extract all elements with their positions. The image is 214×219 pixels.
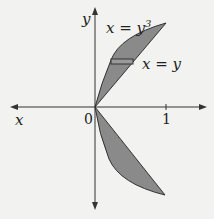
- curve-label-line: x = y: [142, 55, 182, 73]
- tick-label-1: 1: [162, 111, 171, 127]
- y-axis-label: y: [81, 10, 91, 28]
- x-axis-label: x: [15, 111, 24, 129]
- region-between-curves-diagram: y x 0 1 x = y3 x = y: [0, 0, 214, 219]
- origin-label: 0: [84, 111, 93, 127]
- curve-label-cubic: x = y3: [106, 18, 151, 37]
- plot: y x 0 1 x = y3 x = y: [0, 0, 214, 219]
- horizontal-strip: [111, 59, 133, 64]
- lower-shaded-region: [95, 107, 165, 195]
